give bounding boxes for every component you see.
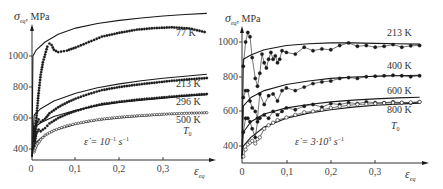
data-point-marker bbox=[153, 27, 155, 29]
data-point-marker bbox=[98, 90, 100, 92]
data-point-marker bbox=[251, 106, 254, 109]
right-label-t0: T0 bbox=[391, 120, 400, 132]
data-point-marker bbox=[141, 98, 143, 100]
data-point-marker bbox=[111, 33, 113, 35]
data-point-marker bbox=[63, 50, 65, 52]
data-point-marker bbox=[93, 105, 95, 107]
data-point-marker bbox=[82, 108, 84, 110]
data-point-marker bbox=[158, 97, 160, 99]
data-point-marker bbox=[201, 77, 203, 79]
data-point-marker bbox=[374, 102, 377, 105]
data-point-marker bbox=[36, 104, 38, 106]
data-point-marker bbox=[400, 46, 403, 49]
data-point-marker bbox=[251, 139, 254, 142]
data-point-marker bbox=[141, 83, 143, 85]
data-point-marker bbox=[34, 140, 36, 142]
data-point-marker bbox=[72, 111, 74, 113]
data-point-marker bbox=[338, 105, 341, 108]
right-label-600k: 600 K bbox=[387, 85, 413, 96]
data-point-marker bbox=[36, 107, 38, 109]
data-point-marker bbox=[146, 98, 148, 100]
data-point-marker bbox=[347, 41, 350, 44]
left-x-axis-arrow-icon bbox=[209, 158, 216, 162]
left-panel: 1000 800 600 400 0 0,1 0,2 0,3 σeq, MPa … bbox=[8, 9, 216, 179]
data-point-marker bbox=[85, 120, 87, 122]
left-xtick-label: 0,3 bbox=[157, 163, 170, 174]
data-point-marker bbox=[156, 113, 158, 115]
data-point-marker bbox=[111, 87, 113, 89]
data-point-marker bbox=[90, 40, 92, 42]
data-point-marker bbox=[347, 76, 350, 79]
data-point-marker bbox=[156, 81, 158, 83]
data-point-marker bbox=[203, 93, 205, 95]
data-point-marker bbox=[128, 85, 130, 87]
data-point-marker bbox=[171, 80, 173, 82]
data-point-marker bbox=[72, 47, 74, 49]
data-point-marker bbox=[258, 136, 261, 139]
data-point-marker bbox=[146, 114, 148, 116]
data-point-marker bbox=[311, 110, 314, 113]
data-point-marker bbox=[320, 108, 323, 111]
data-point-marker bbox=[280, 49, 283, 52]
data-point-marker bbox=[55, 118, 57, 120]
data-point-marker bbox=[246, 89, 249, 92]
right-strain-rate-annotation: ε̇ = 3·103 s−1 bbox=[295, 136, 344, 147]
data-point-marker bbox=[64, 114, 66, 116]
data-point-marker bbox=[88, 106, 90, 108]
right-y-axis-arrow-icon bbox=[240, 26, 244, 33]
data-point-marker bbox=[418, 100, 421, 103]
data-point-marker bbox=[68, 112, 70, 114]
data-point-marker bbox=[128, 99, 130, 101]
data-point-marker bbox=[244, 148, 247, 151]
data-point-marker bbox=[51, 44, 53, 46]
data-point-marker bbox=[278, 58, 281, 61]
data-point-marker bbox=[48, 42, 50, 44]
data-point-marker bbox=[143, 28, 145, 30]
data-point-marker bbox=[77, 45, 79, 47]
data-point-marker bbox=[265, 66, 268, 69]
data-point-marker bbox=[161, 96, 163, 98]
data-point-marker bbox=[103, 118, 105, 120]
data-point-marker bbox=[153, 114, 155, 116]
data-point-marker bbox=[41, 63, 43, 65]
data-point-marker bbox=[141, 28, 143, 30]
data-point-marker bbox=[80, 96, 82, 98]
data-point-marker bbox=[158, 27, 160, 29]
right-label-213k: 213 K bbox=[387, 27, 413, 38]
data-point-marker bbox=[126, 100, 128, 102]
data-point-marker bbox=[121, 100, 123, 102]
data-point-marker bbox=[136, 28, 138, 30]
data-point-marker bbox=[80, 108, 82, 110]
data-point-marker bbox=[116, 32, 118, 34]
data-point-marker bbox=[256, 120, 259, 123]
data-point-marker bbox=[329, 102, 332, 105]
data-point-marker bbox=[201, 30, 203, 32]
data-point-marker bbox=[66, 125, 68, 127]
data-point-marker bbox=[166, 26, 168, 28]
data-point-marker bbox=[263, 113, 266, 116]
data-point-marker bbox=[111, 102, 113, 104]
data-point-marker bbox=[271, 110, 274, 113]
data-point-marker bbox=[44, 127, 46, 129]
data-point-marker bbox=[55, 108, 57, 110]
data-point-marker bbox=[38, 84, 40, 86]
left-xtick-label: 0 bbox=[29, 163, 34, 174]
data-point-marker bbox=[254, 77, 257, 80]
data-point-marker bbox=[276, 61, 279, 64]
data-point-marker bbox=[46, 46, 48, 48]
data-point-marker bbox=[75, 46, 77, 48]
right-panel: 1000 800 600 400 0 0,1 0,2 0,3 σeq, MPa … bbox=[218, 11, 429, 182]
data-point-marker bbox=[42, 136, 44, 138]
data-point-marker bbox=[365, 102, 368, 105]
data-point-marker bbox=[246, 31, 249, 34]
data-point-marker bbox=[271, 121, 274, 124]
data-point-marker bbox=[39, 76, 41, 78]
data-point-marker bbox=[203, 77, 205, 79]
data-point-marker bbox=[106, 88, 108, 90]
data-point-marker bbox=[68, 100, 70, 102]
left-y-axis-arrow-icon bbox=[30, 24, 34, 31]
data-point-marker bbox=[143, 98, 145, 100]
data-point-marker bbox=[391, 74, 394, 77]
data-point-marker bbox=[201, 93, 203, 95]
data-point-marker bbox=[103, 89, 105, 91]
